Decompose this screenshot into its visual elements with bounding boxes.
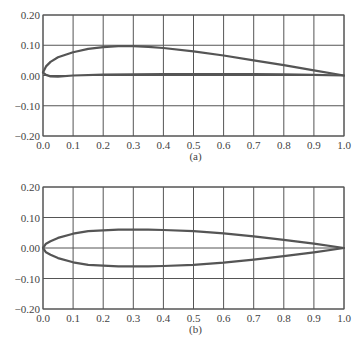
x-tick-label: 0.3 [126, 139, 140, 151]
x-tick-label: 0.7 [247, 139, 261, 151]
airfoil-charts: 0.00.10.20.30.40.50.60.70.80.91.00.200.1… [0, 0, 362, 358]
x-tick-label: 0.9 [307, 312, 321, 324]
y-tick-label: −0.10 [15, 100, 41, 112]
y-tick-label: 0.00 [21, 242, 41, 254]
x-tick-label: 0.2 [96, 312, 110, 324]
x-tick-label: 0.4 [157, 312, 171, 324]
x-tick-label: 0.4 [157, 139, 171, 151]
y-tick-label: 0.10 [21, 39, 41, 51]
x-tick-label: 0.7 [247, 312, 261, 324]
x-tick-label: 1.0 [337, 312, 351, 324]
x-tick-label: 0.3 [126, 312, 140, 324]
y-tick-label: 0.20 [21, 181, 41, 193]
x-tick-label: 0.6 [217, 139, 231, 151]
x-tick-label: 0.2 [96, 139, 110, 151]
x-tick-label: 0.8 [277, 312, 291, 324]
y-tick-label: −0.20 [15, 130, 41, 142]
y-tick-label: −0.10 [15, 273, 41, 285]
chart-a: 0.00.10.20.30.40.50.60.70.80.91.00.200.1… [15, 9, 352, 163]
x-tick-label: 0.9 [307, 139, 321, 151]
chart-b: 0.00.10.20.30.40.50.60.70.80.91.00.200.1… [15, 181, 352, 336]
x-tick-label: 0.1 [66, 312, 80, 324]
chart-caption: (b) [189, 323, 202, 336]
x-tick-label: 1.0 [337, 139, 351, 151]
x-tick-label: 0.8 [277, 139, 291, 151]
x-tick-label: 0.6 [217, 312, 231, 324]
y-tick-label: 0.20 [21, 9, 41, 21]
chart-caption: (a) [189, 150, 202, 163]
x-tick-label: 0.1 [66, 139, 80, 151]
y-tick-label: 0.00 [21, 70, 41, 82]
y-tick-label: −0.20 [15, 303, 41, 315]
y-tick-label: 0.10 [21, 212, 41, 224]
